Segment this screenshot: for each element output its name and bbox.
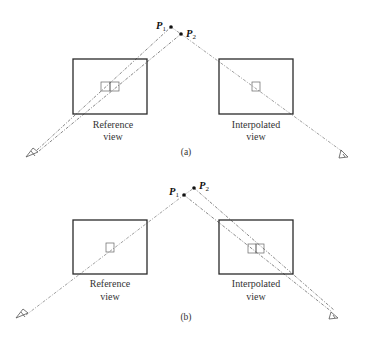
reference-view-label-line1-a: Reference	[93, 119, 134, 130]
eye-icon-left-b	[16, 309, 28, 318]
reference-view-label-line2-a: view	[103, 131, 123, 142]
view-interpolation-diagram: P1 P2 Reference view Interpolated view (…	[0, 0, 373, 340]
reference-view-frame-b	[73, 220, 147, 274]
point-p2-b	[192, 186, 196, 190]
eye-icon-right-b	[329, 312, 338, 319]
interpolated-view-label-line2-a: view	[246, 131, 266, 142]
label-p1-b: P1	[169, 186, 179, 199]
reference-pixel-b	[106, 243, 114, 252]
caption-b: (b)	[180, 312, 191, 323]
point-p2-a	[179, 32, 183, 36]
reference-pixel-2-a	[110, 82, 119, 91]
interpolated-view-label-line1-a: Interpolated	[232, 119, 280, 130]
caption-a: (a)	[181, 147, 192, 158]
interpolated-view-label-line2-b: view	[246, 291, 266, 302]
label-p1-a: P1	[156, 20, 166, 33]
label-p2-b: P2	[199, 180, 209, 193]
point-p1-a	[169, 25, 173, 29]
interpolated-view-label-line1-b: Interpolated	[232, 278, 280, 289]
point-p1-b	[182, 193, 186, 197]
interpolated-pixel-2-b	[256, 244, 264, 253]
panel-b: P1 P2 Reference view Interpolated view (…	[16, 180, 338, 323]
eye-icon-left-a	[26, 148, 38, 157]
panel-a: P1 P2 Reference view Interpolated view (…	[26, 20, 348, 158]
ray-p1-p2	[171, 27, 181, 34]
interpolated-view-frame-a	[219, 59, 293, 114]
reference-view-label-line1-b: Reference	[90, 278, 131, 289]
eye-icon-right-a	[339, 150, 348, 158]
reference-view-label-line2-b: view	[100, 291, 120, 302]
ray-p1-p2-b	[184, 188, 194, 195]
